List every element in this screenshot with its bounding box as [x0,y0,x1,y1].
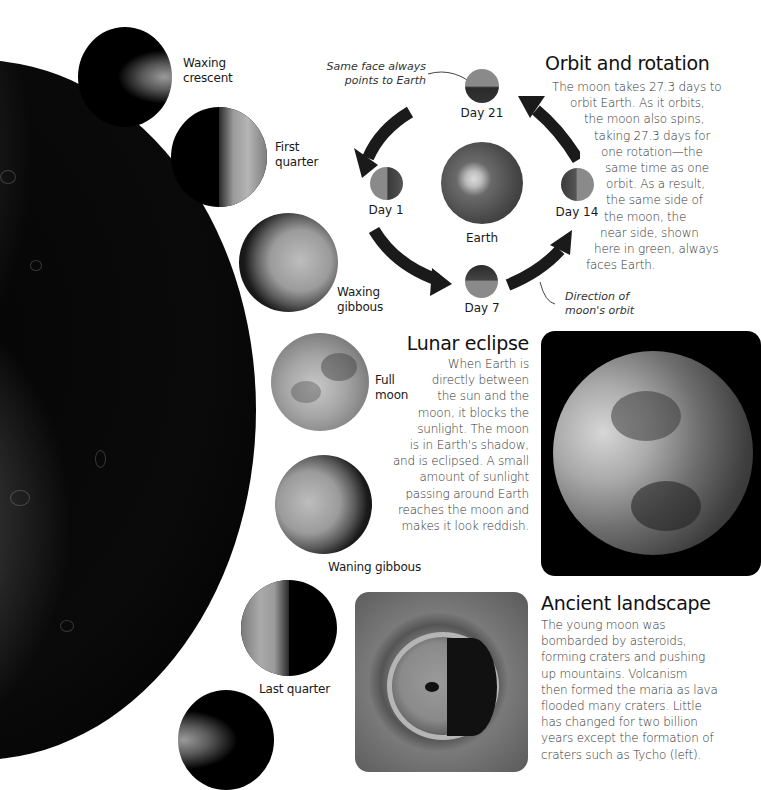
day-1-moon-icon [370,167,403,200]
waxing-gibbous-moon-image [239,213,338,312]
earth-image [441,142,523,224]
last-quarter-moon-image [241,580,337,676]
crater [60,620,74,632]
day-7-moon-icon [465,265,498,298]
annotation-leader-bottom [540,282,555,304]
crater [30,260,42,271]
waxing-crescent-label: Waxingcrescent [183,56,233,86]
same-face-annotation: Same face always points to Earth [310,60,426,88]
orbit-arrow-bottom-right [508,250,560,285]
day-7-label: Day 7 [452,301,512,315]
first-quarter-moon-image [171,107,267,207]
lunar-eclipse-image [541,331,761,576]
orbit-direction-annotation: Direction of moon's orbit [565,290,685,318]
day-1-label: Day 1 [356,203,416,217]
crater [10,490,30,506]
earth-label: Earth [452,231,512,245]
full-moon-image [271,333,369,431]
crater [95,450,106,468]
waning-gibbous-label: Waning gibbous [328,560,421,575]
ancient-landscape-heading: Ancient landscape [541,592,711,614]
orbit-arrow-top-left [368,112,410,158]
orbit-arrow-bottom-left [374,230,438,280]
last-quarter-label: Last quarter [259,682,330,697]
waning-crescent-moon-image [178,690,274,790]
lunar-eclipse-heading: Lunar eclipse [380,332,529,354]
day-21-moon-icon [465,69,499,103]
orbit-rotation-body: The moon takes 27.3 days to orbit Earth.… [556,79,742,273]
lunar-eclipse-body: When Earth is directly between the sun a… [370,356,529,534]
ancient-landscape-body: The young moon was bombarded by asteroid… [541,617,741,763]
arrowhead-bottom-left [430,268,452,296]
first-quarter-label: Firstquarter [275,140,318,170]
orbit-rotation-heading: Orbit and rotation [545,52,710,74]
waxing-crescent-moon-image [78,27,172,127]
crater [0,170,16,184]
tycho-crater-image [355,592,528,772]
waning-gibbous-moon-image [275,455,372,554]
day-21-label: Day 21 [452,106,512,120]
